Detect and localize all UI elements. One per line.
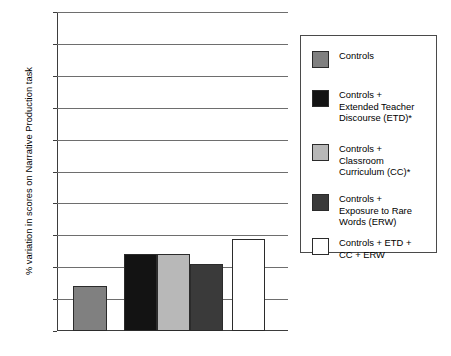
legend-item: Controls + Exposure to Rare Words (ERW)	[312, 193, 412, 228]
y-axis-tick-mark	[53, 235, 57, 236]
gridline	[57, 12, 288, 13]
legend-swatch	[312, 144, 329, 161]
y-axis-title: % variation in scores on Narrative Produ…	[24, 36, 34, 306]
legend-label: Controls + Exposure to Rare Words (ERW)	[339, 193, 412, 228]
legend-item: Controls + Extended Teacher Discourse (E…	[312, 89, 414, 124]
plot-area: 1009080706050403020100	[57, 12, 288, 331]
y-axis-tick-mark	[53, 140, 57, 141]
legend-swatch	[312, 51, 329, 68]
y-axis-tick-mark	[53, 76, 57, 77]
bar	[232, 239, 265, 332]
legend-label: Controls + ETD + CC + ERW	[339, 237, 411, 260]
gridline	[57, 108, 288, 109]
legend-box: ControlsControls + Extended Teacher Disc…	[300, 35, 437, 253]
bar	[190, 264, 223, 331]
gridline	[57, 235, 288, 236]
y-axis-tick-mark	[53, 44, 57, 45]
gridline	[57, 203, 288, 204]
y-axis-tick-mark	[53, 12, 57, 13]
legend-swatch	[312, 90, 329, 107]
y-axis-tick-mark	[53, 108, 57, 109]
legend-item: Controls	[312, 50, 374, 68]
chart-figure: % variation in scores on Narrative Produ…	[0, 0, 451, 356]
y-axis-tick-mark	[53, 331, 57, 332]
gridline	[57, 44, 288, 45]
bar	[124, 254, 157, 331]
legend-label: Controls	[339, 50, 374, 62]
bar	[157, 254, 190, 331]
legend-label: Controls + Classroom Curriculum (CC)*	[339, 143, 410, 178]
bar	[73, 286, 107, 331]
gridline	[57, 76, 288, 77]
legend-swatch	[312, 238, 329, 255]
legend-item: Controls + ETD + CC + ERW	[312, 237, 411, 260]
y-axis-tick-mark	[53, 299, 57, 300]
y-axis-tick-mark	[53, 267, 57, 268]
legend-swatch	[312, 194, 329, 211]
y-axis-tick-mark	[53, 172, 57, 173]
legend-label: Controls + Extended Teacher Discourse (E…	[339, 89, 414, 124]
y-axis-tick-mark	[53, 203, 57, 204]
legend-item: Controls + Classroom Curriculum (CC)*	[312, 143, 410, 178]
gridline	[57, 172, 288, 173]
gridline	[57, 140, 288, 141]
